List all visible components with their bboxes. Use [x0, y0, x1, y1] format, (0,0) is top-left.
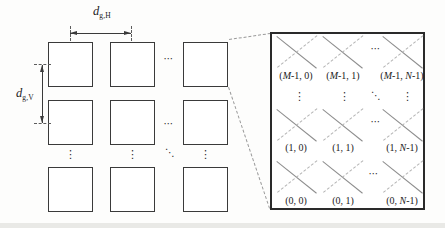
v-spacing-label: dg,V [6, 86, 44, 102]
cross-element-icon [383, 36, 423, 68]
grid-square [183, 42, 228, 87]
cross-element-icon [383, 161, 423, 193]
grid-diag-ellipsis: ⋱ [163, 147, 177, 159]
element-index-label: (1, N-1) [372, 142, 432, 153]
element-index-label: (0, 1) [313, 195, 373, 206]
cross-element-icon [323, 161, 363, 193]
zoom-connector-line [229, 33, 270, 40]
arrowhead-up-icon [40, 65, 44, 72]
v-dimension-line [42, 65, 43, 123]
page-edge-shadow [0, 223, 445, 228]
zoom-connector-line [228, 87, 270, 208]
cross-element-icon [277, 36, 317, 68]
panel-row-ellipsis: ⋮ [402, 90, 412, 104]
panel-row-ellipsis: ⋮ [339, 90, 349, 104]
panel-diag-ellipsis: ⋱ [369, 90, 383, 102]
element-index-label: (0, N-1) [372, 195, 432, 206]
h-spacing-subscript: g,H [99, 11, 111, 20]
element-index-label: (1, 1) [313, 142, 373, 153]
grid-square [48, 42, 93, 87]
cross-element-icon [277, 161, 317, 193]
grid-square [183, 100, 228, 145]
h-dimension-line [70, 33, 131, 34]
cross-element-icon [323, 109, 363, 141]
grid-square [110, 100, 155, 145]
element-index-label: (M-1, N-1) [372, 70, 432, 81]
cross-element-icon [323, 36, 363, 68]
arrowhead-right-icon [124, 31, 131, 35]
antenna-array-figure: ⋯ ⋯ ⋮ ⋮ ⋱ ⋮ dg,H dg,V ⋯ (M-1, 0) (M-1, 1… [0, 0, 445, 228]
panel-row-ellipsis: ⋮ [294, 90, 304, 104]
arrowhead-down-icon [40, 116, 44, 123]
dimension-tick [34, 123, 51, 124]
grid-square [48, 100, 93, 145]
element-index-label: (M-1, 1) [313, 70, 373, 81]
dimension-tick [131, 26, 132, 41]
grid-row-ellipsis: ⋮ [65, 148, 75, 162]
grid-col-ellipsis: ⋯ [157, 118, 181, 130]
grid-row-ellipsis: ⋮ [200, 148, 210, 162]
grid-square [110, 42, 155, 87]
grid-square [48, 167, 93, 212]
h-spacing-label: dg,H [83, 4, 121, 20]
grid-row-ellipsis: ⋮ [127, 148, 137, 162]
cross-element-icon [383, 109, 423, 141]
v-spacing-subscript: g,V [22, 93, 34, 102]
grid-square [110, 167, 155, 212]
cross-element-icon [277, 109, 317, 141]
arrowhead-left-icon [70, 31, 77, 35]
grid-col-ellipsis: ⋯ [157, 53, 181, 65]
grid-square [183, 167, 228, 212]
